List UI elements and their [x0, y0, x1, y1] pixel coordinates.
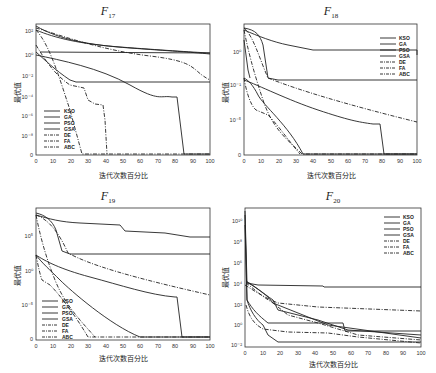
svg-text:10⁻¹: 10⁻¹: [230, 82, 241, 88]
svg-text:10: 10: [260, 350, 266, 356]
chart-plot: 10⁰10⁻¹10⁻⁵0 0102030 40506070 8090100 KS…: [218, 0, 436, 185]
svg-text:10⁰: 10⁰: [233, 49, 242, 55]
svg-text:10²: 10²: [25, 28, 33, 34]
y-axis-label: 最优值: [13, 265, 22, 286]
chart-f20: F20 10¹⁰10⁸10⁶10⁴ 10²10⁰10⁻² 0102030 405…: [218, 185, 436, 373]
svg-text:ABC: ABC: [403, 250, 414, 256]
svg-text:10⁴: 10⁴: [234, 281, 243, 287]
svg-text:10: 10: [50, 158, 56, 164]
svg-text:90: 90: [397, 158, 403, 164]
svg-text:90: 90: [190, 158, 196, 164]
svg-text:10⁻⁵: 10⁻⁵: [22, 302, 33, 308]
svg-text:0: 0: [30, 152, 33, 158]
svg-text:20: 20: [277, 350, 283, 356]
svg-text:10⁰: 10⁰: [25, 52, 34, 58]
svg-text:30: 30: [295, 350, 301, 356]
svg-text:10⁻²: 10⁻²: [22, 73, 33, 79]
svg-text:50: 50: [120, 158, 126, 164]
svg-text:0: 0: [243, 350, 246, 356]
y-axis-label: 最优值: [221, 267, 230, 288]
svg-text:10⁰: 10⁰: [234, 322, 243, 328]
svg-text:ABC: ABC: [64, 144, 75, 150]
svg-text:20: 20: [276, 158, 282, 164]
svg-text:40: 40: [312, 350, 318, 356]
chart-f17: F17 10²10⁰10⁻² 10⁻⁴10⁻⁶10⁻⁸0 0102030 405…: [0, 0, 218, 185]
svg-text:100: 100: [416, 350, 425, 356]
svg-text:ABC: ABC: [399, 71, 410, 77]
svg-text:40: 40: [310, 158, 316, 164]
svg-text:20: 20: [68, 158, 74, 164]
svg-text:80: 80: [383, 350, 389, 356]
x-axis-label: 迭代次数百分比: [307, 171, 356, 180]
chart-plot: 10²10⁰10⁻² 10⁻⁴10⁻⁶10⁻⁸0 0102030 4050607…: [0, 0, 218, 185]
svg-text:10⁻⁵: 10⁻⁵: [230, 117, 241, 123]
svg-text:30: 30: [85, 343, 91, 349]
svg-text:90: 90: [190, 343, 196, 349]
chart-plot: 10¹⁰10⁸10⁶10⁴ 10²10⁰10⁻² 0102030 4050607…: [218, 185, 436, 373]
svg-text:0: 0: [30, 336, 33, 342]
chart-title: F20: [245, 189, 421, 205]
svg-text:10⁻²: 10⁻²: [231, 342, 242, 348]
svg-text:20: 20: [68, 343, 74, 349]
svg-text:70: 70: [155, 343, 161, 349]
svg-text:0: 0: [34, 158, 37, 164]
svg-text:70: 70: [365, 350, 371, 356]
svg-text:70: 70: [155, 158, 161, 164]
chart-plot: 10⁵10⁰10⁻⁵0 0102030 40506070 8090100 KSO…: [0, 185, 218, 373]
svg-text:50: 50: [120, 343, 126, 349]
svg-text:60: 60: [345, 158, 351, 164]
svg-text:10: 10: [258, 158, 264, 164]
svg-text:70: 70: [362, 158, 368, 164]
svg-text:80: 80: [172, 343, 178, 349]
svg-text:10²: 10²: [234, 302, 242, 308]
y-axis-label: 最优值: [221, 82, 230, 103]
svg-text:30: 30: [85, 158, 91, 164]
svg-text:10⁰: 10⁰: [25, 268, 34, 274]
chart-f19: F19 10⁵10⁰10⁻⁵0 0102030 40506070 8090100…: [0, 185, 218, 373]
chart-title: F17: [18, 4, 198, 20]
svg-text:10⁻⁸: 10⁻⁸: [22, 133, 33, 139]
svg-text:10: 10: [50, 343, 56, 349]
y-axis-label: 最优值: [13, 82, 22, 103]
svg-text:80: 80: [379, 158, 385, 164]
svg-text:80: 80: [172, 158, 178, 164]
svg-text:40: 40: [103, 158, 109, 164]
svg-text:ABC: ABC: [62, 334, 73, 340]
svg-text:0: 0: [242, 158, 245, 164]
svg-text:50: 50: [330, 350, 336, 356]
svg-text:10¹⁰: 10¹⁰: [232, 218, 243, 224]
svg-text:50: 50: [328, 158, 334, 164]
svg-text:10⁸: 10⁸: [234, 239, 242, 245]
svg-text:10⁻⁴: 10⁻⁴: [22, 94, 34, 100]
svg-text:40: 40: [103, 343, 109, 349]
svg-text:60: 60: [137, 158, 143, 164]
svg-text:10⁶: 10⁶: [234, 260, 242, 266]
svg-text:100: 100: [412, 158, 421, 164]
svg-text:10⁵: 10⁵: [25, 233, 33, 239]
svg-text:100: 100: [205, 343, 214, 349]
chart-f18: F18 10⁰10⁻¹10⁻⁵0 0102030 40506070 809010…: [218, 0, 436, 185]
x-axis-label: 迭代次数百分比: [99, 354, 148, 363]
svg-text:60: 60: [348, 350, 354, 356]
svg-text:30: 30: [293, 158, 299, 164]
x-axis-label: 迭代次数百分比: [99, 171, 148, 180]
svg-text:10⁻⁶: 10⁻⁶: [22, 113, 33, 119]
svg-text:60: 60: [137, 343, 143, 349]
chart-title: F18: [244, 4, 418, 20]
chart-title: F19: [18, 189, 198, 205]
svg-text:0: 0: [238, 152, 241, 158]
svg-text:0: 0: [34, 343, 37, 349]
svg-text:100: 100: [205, 158, 214, 164]
svg-text:90: 90: [400, 350, 406, 356]
x-axis-label: 迭代次数百分比: [309, 360, 358, 369]
